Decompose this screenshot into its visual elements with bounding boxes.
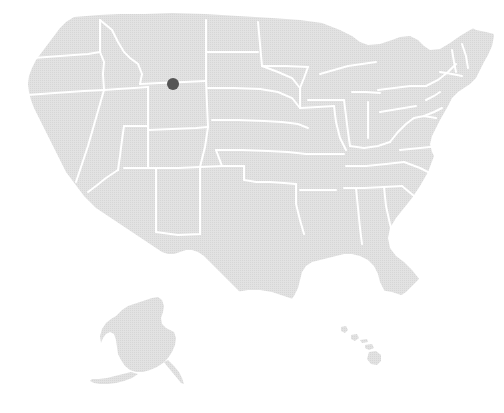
inset-alaska: [90, 297, 184, 384]
land-layer: [0, 0, 504, 413]
region-alaska-aleutians: [90, 372, 138, 384]
region-alaska: [100, 297, 176, 372]
region-alaska-panhandle: [164, 360, 184, 384]
coast-carve-gulf: [212, 290, 422, 374]
us-locator-map-figure: [0, 0, 504, 413]
marker-layer: [167, 78, 179, 90]
us-map-svg: [0, 0, 504, 413]
location-marker[interactable]: [167, 78, 179, 90]
coast-carve-northeast: [430, 0, 504, 34]
